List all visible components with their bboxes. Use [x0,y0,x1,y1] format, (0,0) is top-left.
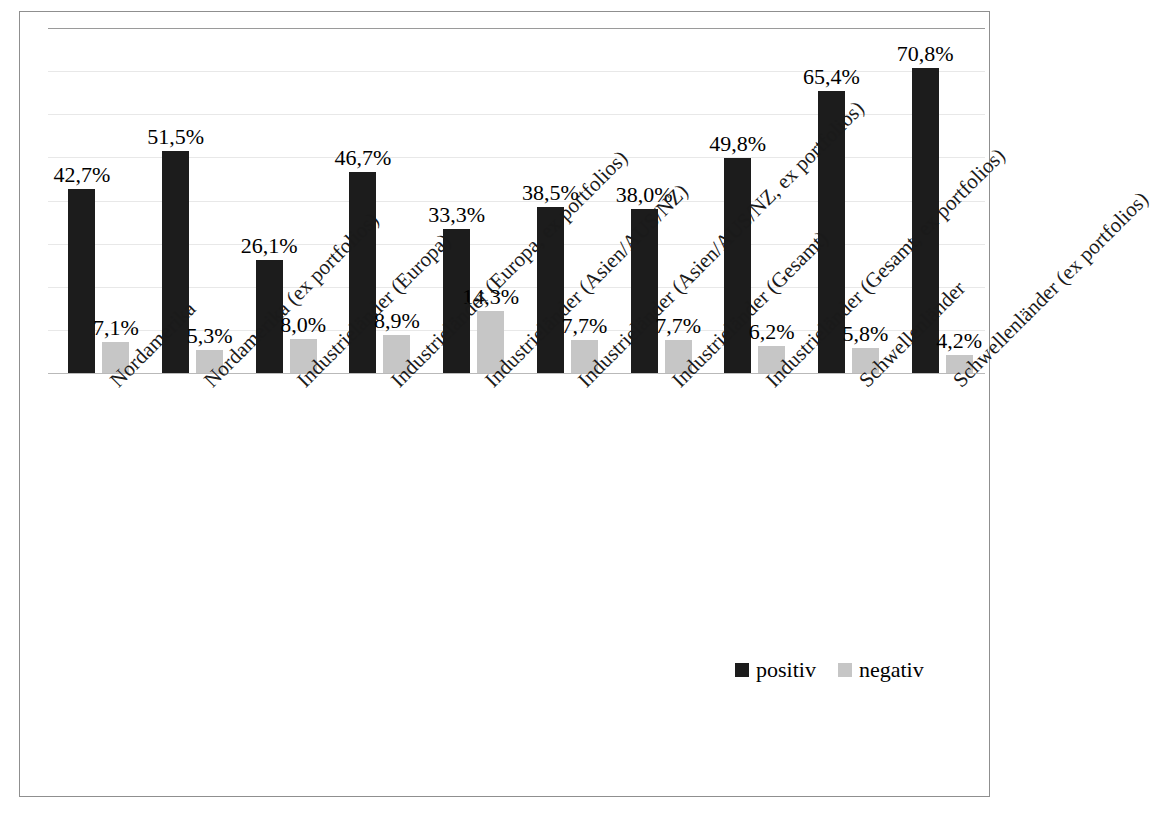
bar-value-label: 7,1% [93,317,139,339]
bar-value-label: 33,3% [428,204,485,226]
legend-label: positiv [756,659,816,681]
bar-value-label: 6,2% [749,321,795,343]
bar-group: 42,7%7,1% [68,28,129,373]
bar-value-label: 46,7% [335,147,392,169]
x-axis-labels: NordamerikaNordamerika (ex portfolios)In… [48,375,985,685]
bar-value-label: 5,3% [187,325,233,347]
bar-value-label: 65,4% [803,66,860,88]
bar-value-label: 70,8% [897,43,954,65]
bar-value-label: 51,5% [147,126,204,148]
gridline [48,373,985,374]
legend-item: negativ [838,659,924,681]
legend-label: negativ [859,659,924,681]
bar-value-label: 5,8% [843,323,889,345]
bar-value-label: 26,1% [241,235,298,257]
legend-swatch-icon [838,663,852,677]
bar-value-label: 42,7% [53,164,110,186]
chart-legend: positivnegativ [735,659,924,681]
legend-item: positiv [735,659,816,681]
legend-swatch-icon [735,663,749,677]
bar-value-label: 49,8% [709,133,766,155]
bar-positiv: 42,7% [68,189,95,373]
